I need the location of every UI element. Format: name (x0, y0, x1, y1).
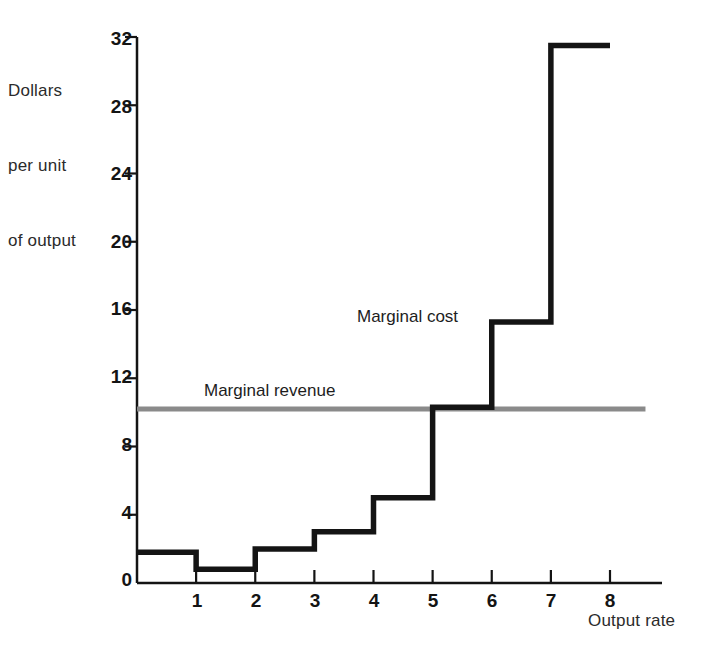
x-axis-ticks (196, 570, 610, 583)
marginal-cost-step-curve (137, 46, 610, 570)
axis-lines (137, 37, 662, 583)
y-axis-ticks (125, 37, 137, 515)
plot-area (0, 0, 726, 647)
figure-canvas: Dollars per unit of output Output rate M… (0, 0, 726, 647)
